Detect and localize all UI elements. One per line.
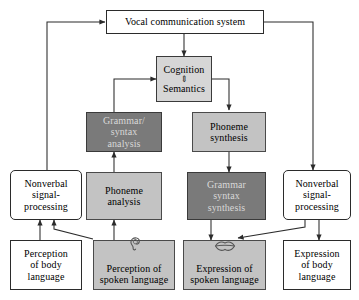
- node-phoneme-synthesis[interactable]: Phoneme synthesis: [192, 112, 266, 152]
- node-label: Nonverbal signal- processing: [23, 178, 69, 212]
- node-expression-of-body-language[interactable]: Expression of body language: [283, 240, 351, 290]
- node-grammar-syntax-synthesis[interactable]: Grammar syntax synthesis: [187, 172, 266, 220]
- semantics-label: Semantics: [162, 83, 206, 94]
- wire-grammar-analysis-to-cognition: [114, 79, 156, 112]
- diagram-canvas: Vocal communication system Cognition ⇕ S…: [0, 0, 359, 300]
- node-label: Grammar syntax synthesis: [206, 179, 247, 213]
- node-label: Grammar/ syntax analysis: [102, 115, 146, 149]
- node-label: Phoneme synthesis: [209, 121, 249, 143]
- node-label: Vocal communication system: [124, 16, 246, 27]
- ear-icon: [126, 226, 142, 262]
- node-label: Nonverbal signal- processing: [294, 178, 340, 212]
- node-perception-of-body-language[interactable]: Perception of body language: [10, 240, 82, 290]
- node-label: Expression of body language: [293, 248, 340, 282]
- node-nonverbal-signal-processing-left[interactable]: Nonverbal signal- processing: [10, 170, 82, 220]
- node-label: Expression of spoken language: [189, 263, 259, 285]
- wire-nonverbal-right-to-expression-spoken: [238, 220, 305, 238]
- node-cognition-semantics[interactable]: Cognition ⇕ Semantics: [156, 56, 212, 102]
- wire-cognition-to-phoneme-synthesis: [211, 79, 229, 110]
- wire-vocal-to-nonverbal-right: [264, 22, 313, 170]
- node-phoneme-analysis[interactable]: Phoneme analysis: [86, 172, 162, 220]
- node-nonverbal-signal-processing-right[interactable]: Nonverbal signal- processing: [283, 170, 351, 220]
- node-expression-of-spoken-language[interactable]: Expression of spoken language: [183, 240, 266, 290]
- node-label: Perception of spoken language: [99, 263, 169, 285]
- lips-icon: [214, 230, 236, 262]
- node-perception-of-spoken-language[interactable]: Perception of spoken language: [93, 240, 175, 290]
- node-label: Perception of body language: [23, 248, 69, 282]
- node-vocal-communication-system[interactable]: Vocal communication system: [106, 10, 264, 34]
- node-label: Phoneme analysis: [104, 185, 144, 207]
- wire-perception-spoken-to-nonverbal-left: [54, 220, 93, 239]
- up-down-arrow-icon: ⇕: [180, 75, 188, 83]
- node-grammar-syntax-analysis[interactable]: Grammar/ syntax analysis: [86, 112, 162, 152]
